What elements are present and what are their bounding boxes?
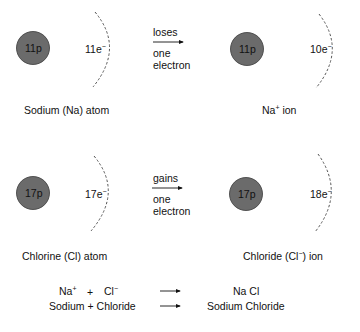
sodium-ion-label: Na+ ion <box>262 105 296 116</box>
sodium-electron-count: 11e− <box>85 44 106 55</box>
chloride-proton-count: 17p <box>238 189 256 200</box>
sodium-proton-count: 11p <box>25 43 42 54</box>
equation-product-formula: Na Cl <box>233 286 259 297</box>
ionic-bond-diagram <box>0 0 360 332</box>
chlorine-atom-label: Chlorine (Cl) atom <box>22 251 107 262</box>
sodium-ion-proton-count: 11p <box>239 44 256 55</box>
transfer-verb-loses: loses <box>153 27 178 38</box>
sodium-atom-label: Sodium (Na) atom <box>24 105 109 116</box>
transfer-verb-gains: gains <box>153 173 178 184</box>
equation-plus: + <box>87 287 93 298</box>
chlorine-proton-count: 17p <box>25 188 43 199</box>
chloride-ion-label: Chloride (Cl−) ion <box>243 251 323 262</box>
transfer-line1: one <box>153 48 171 59</box>
equation-ion-na: Na+ <box>59 286 77 297</box>
equation-ion-cl: Cl− <box>104 286 118 297</box>
chloride-electron-count: 18e− <box>310 189 332 200</box>
sodium-ion-electron-count: 10e− <box>310 44 332 55</box>
transfer-line1-row2: one <box>153 194 171 205</box>
equation-word-product: Sodium Chloride <box>207 301 285 312</box>
transfer-line2: electron <box>153 60 190 71</box>
chlorine-electron-count: 17e− <box>85 189 107 200</box>
transfer-line2-row2: electron <box>153 206 190 217</box>
equation-word-reactants: Sodium + Chloride <box>49 301 136 312</box>
